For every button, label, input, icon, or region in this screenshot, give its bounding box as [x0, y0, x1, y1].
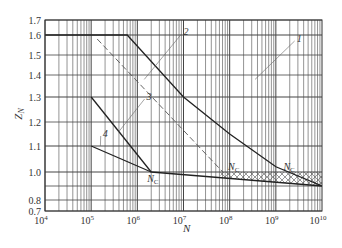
y-axis-label: ZN: [12, 108, 26, 120]
svg-text:1.7: 1.7: [29, 15, 42, 26]
x-axis-label: N: [182, 222, 191, 234]
curve-2: [97, 39, 223, 172]
svg-text:104: 104: [34, 214, 48, 226]
svg-text:1.3: 1.3: [29, 92, 42, 103]
svg-text:1.1: 1.1: [29, 141, 42, 152]
svg-text:0.8: 0.8: [29, 195, 42, 206]
svg-text:109: 109: [265, 214, 279, 226]
svg-text:1.5: 1.5: [29, 50, 42, 61]
svg-text:1.2: 1.2: [29, 117, 42, 128]
y-axis-ticks: 0.70.81.01.11.21.31.41.51.61.7: [29, 15, 42, 217]
svg-text:108: 108: [219, 214, 233, 226]
svg-text:ZN: ZN: [12, 108, 26, 120]
fatigue-life-factor-chart: 0.70.81.01.11.21.31.41.51.61.7 104105106…: [0, 0, 342, 248]
svg-text:2: 2: [184, 26, 189, 37]
curve-3: [91, 97, 151, 172]
svg-text:1.6: 1.6: [29, 30, 42, 41]
svg-text:1: 1: [297, 33, 302, 44]
svg-text:NC: NC: [146, 173, 159, 186]
svg-text:1010: 1010: [310, 214, 328, 226]
svg-text:1.4: 1.4: [29, 70, 42, 81]
svg-text:1.0: 1.0: [29, 167, 42, 178]
svg-text:3: 3: [146, 91, 152, 102]
svg-text:105: 105: [80, 214, 94, 226]
svg-text:106: 106: [127, 214, 141, 226]
curve-4: [91, 146, 151, 172]
svg-text:4: 4: [103, 128, 108, 139]
x-axis-ticks: 1041051061071081091010: [34, 214, 327, 226]
